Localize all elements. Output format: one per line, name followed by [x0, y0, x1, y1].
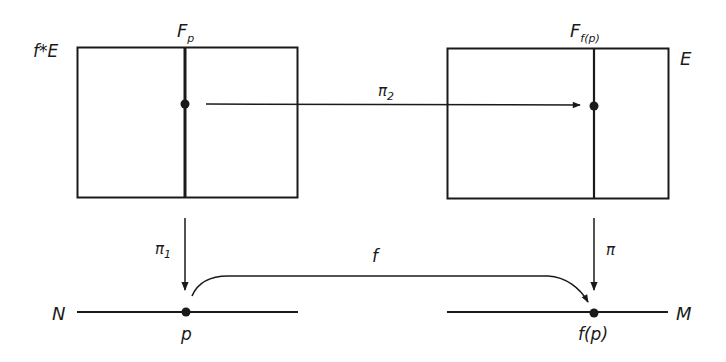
label-base-m: M — [676, 303, 692, 324]
label-point-p: p — [180, 324, 192, 344]
bundle-box — [448, 49, 669, 199]
label-pi1: π1 — [155, 240, 171, 261]
label-fiber-right: Ff(p) — [570, 20, 600, 45]
label-pi: π — [606, 241, 616, 259]
label-pullback-bundle: f*E — [33, 41, 58, 61]
label-pi2: π2 — [378, 82, 394, 103]
f-arrow — [192, 276, 588, 302]
label-point-fp: f(p) — [578, 324, 608, 344]
point-p — [182, 308, 191, 317]
fiber-right-point — [590, 102, 599, 111]
pullback-diagram: f*E Fp Ff(p) E π2 π1 π f N M p f(p) — [0, 0, 726, 362]
label-base-n: N — [52, 303, 65, 324]
fiber-left-point — [181, 100, 190, 109]
pi2-arrow — [206, 104, 580, 105]
label-bundle: E — [680, 48, 692, 69]
label-fiber-left: Fp — [177, 20, 194, 45]
label-f: f — [372, 246, 381, 266]
pullback-bundle-box — [78, 48, 298, 198]
point-fp — [590, 309, 599, 318]
